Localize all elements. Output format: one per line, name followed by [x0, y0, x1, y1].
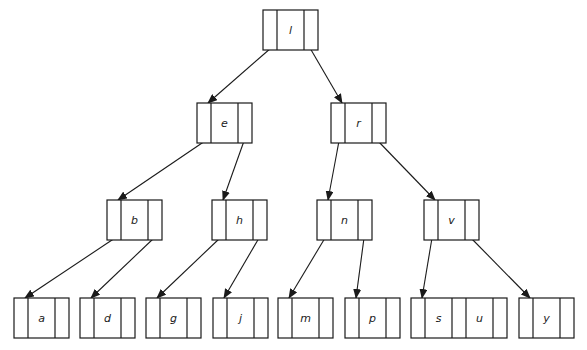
tree-node-a: a: [14, 298, 69, 338]
tree-node-h: h: [212, 200, 267, 240]
tree-node-p: p: [345, 298, 400, 338]
node-key: g: [170, 312, 177, 325]
node-key: a: [38, 312, 45, 325]
edge-arrow-b-d: [91, 238, 154, 298]
edge-arrow-l-e: [208, 48, 271, 103]
tree-node-d: d: [80, 298, 135, 338]
edge-arrow-e-b: [118, 141, 205, 200]
tree-diagram: lerbhnvadgjmpsuy: [0, 0, 587, 350]
tree-node-y: y: [519, 298, 574, 338]
node-key: v: [448, 214, 455, 227]
node-key: p: [368, 312, 376, 325]
node-key: n: [341, 214, 348, 227]
tree-node-b: b: [107, 200, 162, 240]
node-key: d: [104, 312, 112, 325]
edge-arrow-l-r: [310, 48, 342, 103]
tree-node-g: g: [146, 298, 201, 338]
edge-arrow-n-m: [289, 238, 325, 298]
edge-arrow-b-a: [25, 238, 115, 298]
node-key: y: [542, 312, 550, 325]
tree-node-r: r: [331, 103, 386, 143]
tree-node-n: n: [317, 200, 372, 240]
node-key: l: [289, 24, 292, 37]
node-key: b: [131, 214, 138, 227]
tree-node-v: v: [424, 200, 479, 240]
edge-arrow-r-v: [378, 141, 435, 200]
edge-arrow-n-p: [356, 238, 364, 298]
tree-node-e: e: [197, 103, 252, 143]
edge-arrow-r-n: [328, 141, 339, 200]
edge-arrow-h-j: [224, 238, 259, 298]
tree-node-j: j: [213, 298, 268, 338]
node-key: m: [300, 312, 311, 325]
tree-node-m: m: [278, 298, 333, 338]
edges-layer: [25, 48, 530, 298]
node-key: h: [236, 214, 243, 227]
node-key: e: [221, 117, 228, 130]
node-key: u: [476, 312, 483, 325]
node-key: s: [436, 312, 442, 325]
tree-node-l: l: [263, 10, 318, 50]
tree-node-su: su: [411, 298, 507, 338]
edge-arrow-h-g: [157, 238, 220, 298]
edge-arrow-e-h: [223, 141, 244, 200]
edge-arrow-v-su: [422, 238, 432, 298]
edge-arrow-v-y: [471, 238, 530, 298]
